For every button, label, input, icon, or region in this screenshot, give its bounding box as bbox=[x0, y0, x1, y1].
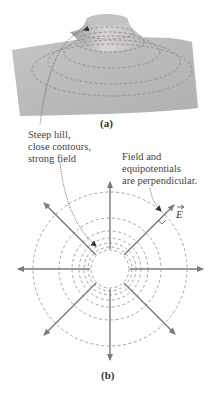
annotation-line: Field and bbox=[122, 151, 197, 163]
e-field-label: E bbox=[175, 208, 183, 220]
caption-b: (b) bbox=[101, 369, 114, 381]
caption-a: (a) bbox=[100, 117, 113, 129]
leader-line-close-contours bbox=[60, 162, 96, 246]
annotation-line: close contours, bbox=[28, 141, 91, 153]
leader-line-perpendicular bbox=[150, 188, 161, 211]
annotation-line: Steep hill, bbox=[28, 129, 91, 141]
steep-hill-label: Steep hill, close contours, strong field bbox=[28, 129, 91, 165]
annotation-line: equipotentials bbox=[122, 163, 197, 175]
field-diagram: E bbox=[0, 0, 215, 394]
perpendicular-label: Field and equipotentials are perpendicul… bbox=[122, 151, 197, 187]
annotation-line: strong field bbox=[28, 153, 91, 165]
potential-surface bbox=[12, 14, 198, 116]
annotation-line: are perpendicular. bbox=[122, 175, 197, 187]
